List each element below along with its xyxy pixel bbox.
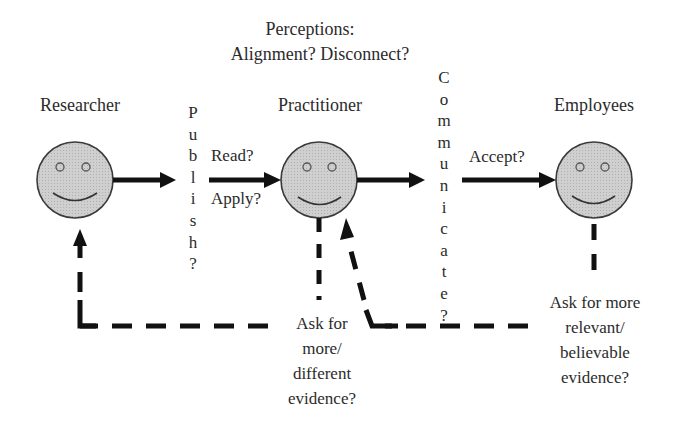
feedback-line: different: [270, 361, 374, 386]
feedback-line: relevant/: [530, 315, 660, 340]
arrow-communicate-employees: [462, 172, 556, 188]
communicate-letter: i: [442, 197, 447, 219]
practitioner-label: Practitioner: [260, 95, 380, 116]
employees-smiley-icon: [556, 142, 632, 218]
publish-letter: i: [191, 188, 196, 210]
perceptions-subtitle: Alignment? Disconnect?: [200, 43, 440, 65]
communicate-letter: u: [440, 153, 449, 175]
employees-label: Employees: [534, 95, 654, 116]
publish-letter: P: [188, 102, 197, 124]
perceptions-title: Perceptions:: [230, 18, 390, 40]
arrow-researcher-publish: [113, 172, 176, 188]
practitioner-smiley-icon: [281, 142, 357, 218]
communicate-letter: e: [440, 283, 448, 305]
communicate-letter: n: [440, 175, 449, 197]
feedback-line: believable: [530, 340, 660, 365]
arrow-publish-practitioner: [209, 172, 281, 188]
publish-letter: ?: [189, 253, 197, 275]
communicate-letter: o: [440, 89, 449, 111]
publish-letter: u: [189, 124, 198, 146]
communicate-letter: t: [442, 261, 447, 283]
ask-different-evidence-label: Ask for more/ different evidence?: [270, 311, 374, 411]
perceptions-title-line2: Alignment? Disconnect?: [200, 43, 440, 65]
communicate-letter: a: [440, 240, 448, 262]
communicate-letter: m: [437, 132, 450, 154]
publish-letter: s: [190, 210, 197, 232]
communicate-vertical-label: C o m m u n i c a t e ?: [433, 67, 455, 326]
read-label: Read?: [211, 146, 253, 166]
ask-relevant-evidence-label: Ask for more relevant/ believable eviden…: [530, 290, 660, 390]
communicate-letter: ?: [440, 305, 448, 327]
feedback-line: evidence?: [270, 386, 374, 411]
communicate-letter: c: [440, 218, 448, 240]
feedback-line: Ask for: [270, 311, 374, 336]
communicate-letter: C: [438, 67, 449, 89]
publish-letter: h: [189, 232, 198, 254]
researcher-smiley-icon: [37, 142, 113, 218]
arrow-practitioner-communicate: [357, 172, 425, 188]
feedback-line: more/: [270, 336, 374, 361]
publish-letter: l: [191, 167, 196, 189]
researcher-label: Researcher: [20, 95, 140, 116]
accept-label: Accept?: [469, 147, 525, 167]
feedback-line: evidence?: [530, 365, 660, 390]
feedback-line: Ask for more: [530, 290, 660, 315]
communicate-letter: m: [437, 110, 450, 132]
perceptions-title-line1: Perceptions:: [230, 18, 390, 40]
publish-letter: b: [189, 145, 198, 167]
apply-label: Apply?: [211, 189, 261, 209]
publish-vertical-label: P u b l i s h ?: [183, 102, 203, 275]
